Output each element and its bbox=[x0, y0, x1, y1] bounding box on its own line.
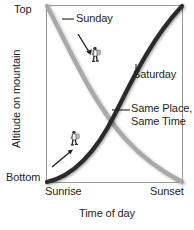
same-place-line-1: Same Place, bbox=[131, 102, 192, 114]
x-axis-tick-sunset: Sunset bbox=[150, 186, 184, 198]
same-place-line-2: Same Time bbox=[131, 116, 192, 128]
y-axis-title: Altitude on mountain bbox=[11, 34, 23, 164]
same-place-same-time-annotation: Same Place, Same Time bbox=[131, 103, 192, 127]
x-axis-tick-sunrise: Sunrise bbox=[45, 186, 82, 198]
sunday-annotation-label: Sunday bbox=[76, 13, 113, 25]
x-axis-title: Time of day bbox=[62, 208, 152, 220]
altitude-vs-time-chart: Top Bottom Sunrise Sunset Altitude on mo… bbox=[0, 0, 194, 230]
y-axis-tick-bottom: Bottom bbox=[6, 172, 40, 184]
y-axis-tick-top: Top bbox=[14, 4, 31, 16]
saturday-annotation-label: Saturday bbox=[133, 69, 176, 81]
